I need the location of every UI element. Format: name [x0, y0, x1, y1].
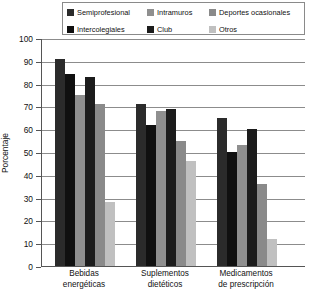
legend-item-intramuros: Intramuros	[147, 9, 209, 17]
bar-chart: Semiprofesional Intramuros Deportes ocas…	[0, 0, 314, 298]
bar	[55, 59, 65, 266]
legend-label: Club	[157, 26, 172, 34]
x-gap	[114, 269, 135, 298]
legend-label: Intercolegiales	[77, 26, 125, 34]
bar	[267, 239, 277, 266]
x-tick-label-line: dietéticos	[148, 280, 183, 291]
x-tick-label-line: Suplementos	[141, 269, 189, 280]
bar	[85, 77, 95, 266]
legend-item-otros: Otros	[209, 26, 237, 34]
bar-group	[217, 39, 277, 266]
bar-groups	[42, 39, 305, 266]
legend-item-club: Club	[147, 26, 209, 34]
y-tick-label: 90	[24, 58, 33, 66]
x-gap	[41, 269, 54, 298]
bar	[176, 141, 186, 266]
x-tick-label-line: Bebidas	[69, 269, 99, 280]
bar-gap	[196, 39, 217, 266]
legend-swatch-icon	[67, 9, 74, 16]
y-tick-label: 10	[24, 240, 33, 248]
bar	[95, 104, 105, 266]
y-tick-label: 0	[28, 263, 33, 271]
bar	[65, 74, 75, 266]
legend-item-semiprofesional: Semiprofesional	[67, 9, 147, 17]
legend-item-deportes-ocasionales: Deportes ocasionales	[209, 9, 290, 17]
legend-label: Otros	[219, 26, 237, 34]
y-axis: 1009080706050403020100	[0, 39, 41, 267]
bar-group	[136, 39, 196, 266]
legend-swatch-icon	[209, 26, 216, 33]
y-tick-label: 70	[24, 103, 33, 111]
y-tick-label: 100	[19, 35, 33, 43]
y-tick-label: 50	[24, 149, 33, 157]
bar	[227, 152, 237, 266]
bar	[237, 145, 247, 266]
legend-label: Semiprofesional	[77, 9, 130, 17]
legend-row: Intercolegiales Club Otros	[67, 23, 300, 36]
y-tick-label: 20	[24, 217, 33, 225]
y-tick-label: 80	[24, 81, 33, 89]
legend-label: Intramuros	[157, 9, 192, 17]
bar-gap	[42, 39, 55, 266]
legend-item-intercolegiales: Intercolegiales	[67, 26, 147, 34]
legend-row: Semiprofesional Intramuros Deportes ocas…	[67, 6, 300, 19]
bar-gap	[115, 39, 136, 266]
legend-swatch-icon	[147, 26, 154, 33]
y-tick-label: 60	[24, 126, 33, 134]
x-tick-label: Bebidasenergéticas	[54, 269, 114, 298]
legend-swatch-icon	[209, 9, 216, 16]
x-tick-label: Suplementosdietéticos	[135, 269, 195, 298]
bar	[186, 161, 196, 266]
x-tick-label-line: energéticas	[63, 280, 105, 291]
legend-label: Deportes ocasionales	[219, 9, 290, 17]
bar-group	[55, 39, 115, 266]
chart-legend: Semiprofesional Intramuros Deportes ocas…	[62, 2, 305, 35]
y-tick-label: 30	[24, 195, 33, 203]
bar	[217, 118, 227, 266]
bar	[247, 129, 257, 266]
y-tick-label: 40	[24, 172, 33, 180]
bar	[75, 95, 85, 266]
legend-swatch-icon	[147, 9, 154, 16]
bar	[146, 125, 156, 266]
x-tick-label: Medicamentosde prescripción	[216, 269, 276, 298]
bar	[257, 184, 267, 266]
x-gap	[195, 269, 216, 298]
bar	[166, 109, 176, 266]
x-tick-label-line: de prescripción	[218, 280, 274, 291]
bar	[136, 104, 146, 266]
bar	[105, 202, 115, 266]
legend-swatch-icon	[67, 26, 74, 33]
x-tick-label-line: Medicamentos	[219, 269, 272, 280]
bar	[156, 111, 166, 266]
x-axis: BebidasenergéticasSuplementosdietéticosM…	[41, 269, 305, 298]
plot-area	[41, 39, 305, 267]
y-tick-mark	[36, 267, 41, 268]
